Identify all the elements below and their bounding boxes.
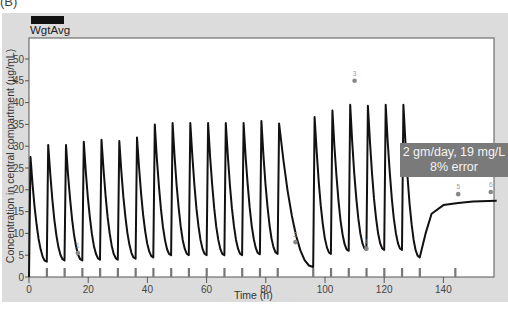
x-tick-label: 120 — [376, 284, 393, 295]
dose-marker — [419, 268, 421, 277]
x-tick-label: 0 — [26, 284, 32, 295]
observed-point — [488, 190, 493, 195]
dose-marker — [135, 268, 137, 277]
x-tick-label: 140 — [435, 284, 452, 295]
observed-point-label: 5 — [456, 183, 460, 190]
x-tick-label: 20 — [83, 284, 95, 295]
x-tick-label: 100 — [317, 284, 334, 295]
dose-marker — [454, 268, 456, 277]
dose-marker — [241, 268, 243, 277]
dose-marker — [277, 268, 279, 277]
annotation-line-1: 2 gm/day, 19 mg/L — [400, 145, 508, 160]
observed-point-label: 3 — [353, 70, 357, 77]
dose-marker — [188, 268, 190, 277]
dose-marker — [206, 268, 208, 277]
x-tick-label: 40 — [142, 284, 154, 295]
observed-point-label: 6 — [489, 181, 493, 188]
result-annotation: 2 gm/day, 19 mg/L 8% error — [400, 143, 508, 177]
observed-point — [293, 240, 298, 245]
observed-point — [352, 79, 357, 84]
dose-marker — [46, 268, 48, 277]
y-tick-label: 0 — [18, 272, 24, 283]
observed-point — [456, 192, 461, 197]
observed-point-label: 2 — [294, 231, 298, 238]
dose-marker — [99, 268, 101, 277]
observed-point — [76, 251, 81, 256]
observed-point-label: 4 — [365, 238, 369, 245]
dose-marker — [348, 268, 350, 277]
observed-point — [364, 246, 369, 251]
dose-marker — [312, 268, 314, 277]
dose-marker — [365, 268, 367, 277]
dose-marker — [117, 268, 119, 277]
dose-marker — [64, 268, 66, 277]
x-tick-label: 60 — [201, 284, 213, 295]
observed-point-label: 1 — [76, 242, 80, 249]
y-tick-label: 5 — [18, 250, 24, 261]
dose-marker — [152, 268, 154, 277]
dose-marker — [81, 268, 83, 277]
dose-marker — [383, 268, 385, 277]
dose-marker — [259, 268, 261, 277]
x-axis-label: Time (h) — [234, 289, 273, 301]
dose-marker — [330, 268, 332, 277]
y-axis-label: Concentration in central compartment (µg… — [4, 36, 16, 276]
annotation-line-2: 8% error — [400, 160, 508, 175]
dose-marker — [223, 268, 225, 277]
dose-marker — [401, 268, 403, 277]
dose-marker — [170, 268, 172, 277]
